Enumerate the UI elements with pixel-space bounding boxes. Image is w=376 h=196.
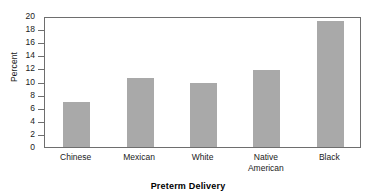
y-tick-label: 6 [11, 104, 35, 113]
y-tick-label: 14 [11, 51, 35, 60]
x-tick-label: Native American [234, 152, 297, 173]
x-tick-label: White [171, 152, 234, 163]
plot-area [44, 17, 361, 148]
y-tick-label: 0 [11, 143, 35, 152]
bar [190, 83, 217, 147]
chart-title: Preterm Delivery [0, 181, 376, 191]
bar [253, 70, 280, 147]
y-tick-label: 2 [11, 130, 35, 139]
bar [127, 78, 154, 147]
bar [63, 102, 90, 147]
y-tick-label: 20 [11, 12, 35, 21]
y-tick-label: 16 [11, 38, 35, 47]
bar-chart: Percent 02468101214161820 ChineseMexican… [0, 0, 376, 196]
y-tick-label: 4 [11, 117, 35, 126]
y-tick-label: 8 [11, 91, 35, 100]
bar [317, 21, 344, 147]
y-tick-label: 18 [11, 25, 35, 34]
y-tick-label: 12 [11, 64, 35, 73]
x-tick-label: Black [298, 152, 361, 163]
x-tick-label: Chinese [44, 152, 107, 163]
x-tick-label: Mexican [107, 152, 170, 163]
y-tick-label: 10 [11, 78, 35, 87]
